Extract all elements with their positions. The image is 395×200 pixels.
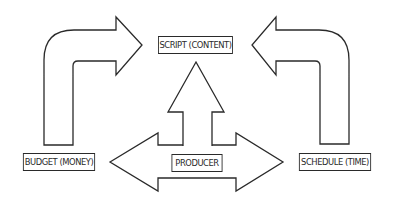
node-budget: BUDGET (MONEY): [23, 153, 95, 171]
bent-arrow-schedule-to-script: [252, 17, 349, 144]
bent-arrow-budget-to-script: [44, 17, 142, 145]
node-schedule: SCHEDULE (TIME): [299, 153, 371, 171]
up-arrow-producer-to-script: [168, 62, 224, 146]
node-producer: PRODUCER: [171, 154, 222, 172]
diagram-canvas: SCRIPT (CONTENT) PRODUCER BUDGET (MONEY)…: [0, 0, 395, 200]
node-script: SCRIPT (CONTENT): [158, 36, 233, 54]
